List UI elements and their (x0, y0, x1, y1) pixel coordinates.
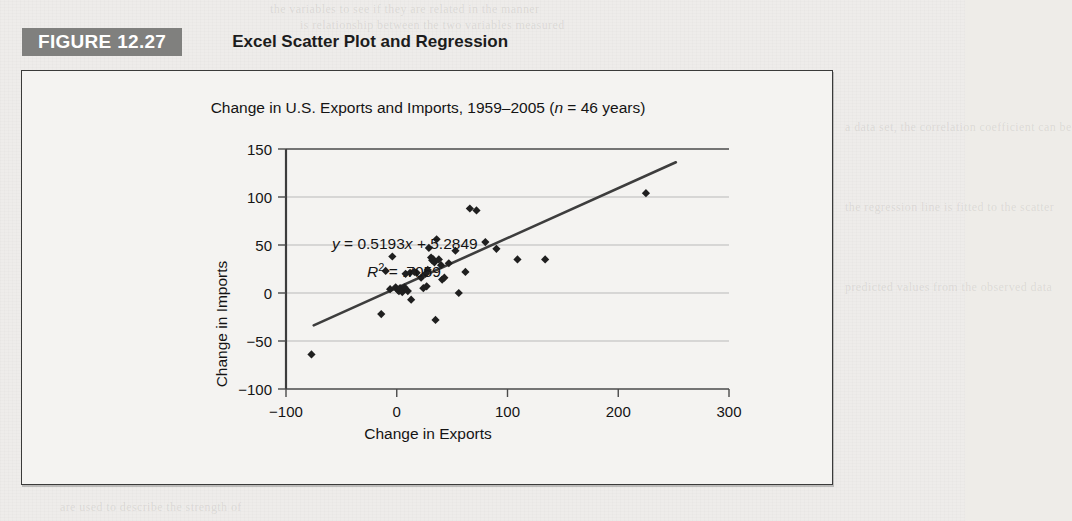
scatter-point (455, 289, 463, 297)
scatter-point (407, 296, 415, 304)
x-axis-tick-labels: −1000100200300 (269, 403, 741, 420)
scatter-point (431, 316, 439, 324)
scatter-point (466, 204, 474, 212)
x-tick-label: 100 (495, 403, 520, 420)
scatter-point (472, 206, 480, 214)
bleed-text-line: the regression line is fitted to the sca… (845, 200, 1054, 215)
plot-border (286, 149, 729, 389)
bleed-text-line: predicted values from the observed data (845, 280, 1052, 295)
x-tick-label: 200 (606, 403, 631, 420)
scatter-point (642, 189, 650, 197)
bleed-text-line: a data set, the correlation coefficient … (845, 120, 1072, 135)
figure-header: FIGURE 12.27 Excel Scatter Plot and Regr… (22, 27, 508, 57)
x-axis-title: Change in Exports (364, 425, 492, 442)
y-axis-tick-labels: −100−50050100150 (238, 141, 272, 398)
figure-frame: Change in U.S. Exports and Imports, 1959… (21, 70, 833, 485)
y-axis-ticks (278, 149, 286, 389)
bleed-text-line: the variables to see if they are related… (270, 2, 540, 17)
y-axis-title: Change in Imports (213, 260, 230, 387)
x-axis-ticks (286, 389, 729, 397)
regression-equation-annotation: y = 0.5193x + 5.2849 (331, 235, 478, 252)
y-tick-label: 0 (264, 285, 272, 302)
scatter-point (492, 245, 500, 253)
scatter-point (461, 268, 469, 276)
r-squared-annotation: R2 = .7059 (367, 261, 441, 280)
scatter-chart: Change in U.S. Exports and Imports, 1959… (22, 71, 834, 486)
y-tick-label: 150 (247, 141, 272, 158)
scatter-point (388, 252, 396, 260)
scatter-point (513, 255, 521, 263)
x-tick-label: 0 (393, 403, 401, 420)
bleed-text-line: are used to describe the strength of (60, 500, 242, 515)
scatter-point (377, 310, 385, 318)
scatter-point (541, 255, 549, 263)
y-tick-label: 50 (255, 237, 272, 254)
scatter-point (307, 350, 315, 358)
eq-slope-text: = 0.5193 (340, 235, 405, 252)
figure-caption-title: Excel Scatter Plot and Regression (232, 32, 508, 52)
y-tick-label: −50 (247, 333, 272, 350)
x-tick-label: 300 (716, 403, 741, 420)
r2-symbol: R (367, 263, 378, 280)
x-tick-label: −100 (269, 403, 303, 420)
figure-number-badge: FIGURE 12.27 (22, 28, 182, 56)
gridlines (286, 197, 729, 341)
r2-value: = .7059 (384, 263, 440, 280)
plot-svg: −1000100200300 −100−50050100150 y = 0.51… (22, 71, 834, 486)
y-tick-label: −100 (238, 381, 272, 398)
eq-intercept-text: + 5.2849 (413, 235, 478, 252)
y-tick-label: 100 (247, 189, 272, 206)
scatter-points (307, 189, 650, 358)
